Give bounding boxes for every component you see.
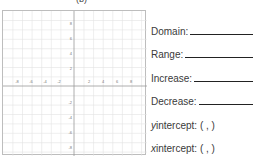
svg-text:-8: -8 <box>15 79 19 84</box>
decrease-blank[interactable] <box>199 104 253 105</box>
answer-fields: Domain: Range: Increase: Decrease: y int… <box>151 13 256 154</box>
increase-label: Increase: <box>151 73 192 84</box>
y-intercept-label: intercept: ( , ) <box>156 120 215 131</box>
svg-text:-6: -6 <box>68 130 72 135</box>
domain-field[interactable]: Domain: <box>151 13 256 37</box>
svg-text:4: 4 <box>70 51 73 56</box>
svg-text:-8: -8 <box>68 145 72 150</box>
range-blank[interactable] <box>185 57 253 58</box>
grid-svg: -8-6 -4-2 24 68 86 42 -2-4 -6-8 <box>3 11 147 156</box>
y-intercept-field[interactable]: y intercept: ( , ) <box>151 107 256 131</box>
svg-text:2: 2 <box>88 79 91 84</box>
coordinate-grid: -8-6 -4-2 24 68 86 42 -2-4 -6-8 <box>2 10 146 155</box>
increase-field[interactable]: Increase: <box>151 60 256 84</box>
svg-text:-6: -6 <box>29 79 33 84</box>
domain-blank[interactable] <box>190 34 253 35</box>
domain-label: Domain: <box>151 26 188 37</box>
svg-text:-2: -2 <box>68 100 72 105</box>
range-label: Range: <box>151 49 183 60</box>
decrease-field[interactable]: Decrease: <box>151 84 256 108</box>
x-intercept-label: intercept: ( , ) <box>156 143 215 154</box>
x-intercept-field[interactable]: x intercept: ( , ) <box>151 131 256 155</box>
svg-text:6: 6 <box>70 36 73 41</box>
increase-blank[interactable] <box>194 81 253 82</box>
svg-text:6: 6 <box>116 79 119 84</box>
decrease-label: Decrease: <box>151 96 197 107</box>
svg-text:8: 8 <box>130 79 133 84</box>
svg-text:-4: -4 <box>68 115 72 120</box>
problem-label: (b) <box>76 0 87 4</box>
range-field[interactable]: Range: <box>151 37 256 61</box>
svg-text:-4: -4 <box>43 79 47 84</box>
svg-text:2: 2 <box>70 66 73 71</box>
svg-text:8: 8 <box>70 21 73 26</box>
svg-text:4: 4 <box>102 79 105 84</box>
